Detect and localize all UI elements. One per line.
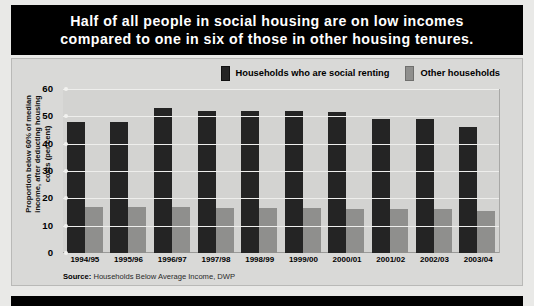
bar — [303, 208, 321, 253]
y-axis-tick-label: 20 — [16, 192, 62, 203]
bar — [477, 211, 495, 253]
y-axis-tick-marker — [64, 224, 68, 228]
x-axis-tick-label: 2003/04 — [456, 255, 500, 269]
bar — [434, 209, 452, 253]
bar — [198, 111, 216, 253]
bar — [85, 207, 103, 253]
infographic-page: Half of all people in social housing are… — [0, 0, 534, 306]
title-line-2: compared to one in six of those in other… — [60, 30, 473, 48]
gridline — [63, 144, 499, 145]
x-axis-tick-label: 1996/97 — [150, 255, 194, 269]
y-axis-tick-marker — [64, 114, 68, 118]
y-axis-tick-label: 40 — [16, 138, 62, 149]
y-axis-title: Proportion below 60% of median income, a… — [22, 69, 54, 239]
gridline — [63, 89, 499, 90]
chart-legend: Households who are social renting Other … — [12, 64, 522, 82]
x-axis-labels: 1994/951995/961996/971997/981998/991999/… — [63, 255, 500, 269]
gridline — [63, 226, 499, 227]
bar — [346, 209, 364, 253]
legend-label-social-renting: Households who are social renting — [236, 68, 390, 78]
legend-swatch-icon-other-households — [405, 66, 414, 81]
bar — [390, 209, 408, 253]
y-axis-tick-marker — [64, 142, 68, 146]
bar — [328, 112, 346, 253]
bar — [172, 207, 190, 253]
source-label: Source: — [63, 272, 91, 281]
y-axis-tick-marker — [64, 169, 68, 173]
bar — [459, 127, 477, 253]
plot-area: 6050403020100 — [63, 89, 500, 253]
bar — [154, 108, 172, 253]
bar — [128, 207, 146, 253]
x-axis-tick-label: 1997/98 — [194, 255, 238, 269]
gridline — [63, 116, 499, 117]
bar — [67, 122, 85, 253]
bar — [416, 119, 434, 253]
y-axis-tick-label: 30 — [16, 165, 62, 176]
x-axis-tick-label: 1999/00 — [282, 255, 326, 269]
chart-panel: Households who are social renting Other … — [11, 58, 523, 286]
bar — [216, 208, 234, 253]
bottom-black-strip — [11, 296, 523, 306]
x-axis-tick-label: 2001/02 — [369, 255, 413, 269]
bar — [241, 111, 259, 253]
legend-item-social-renting: Households who are social renting — [221, 66, 390, 81]
legend-item-other-households: Other households — [405, 66, 500, 81]
title-line-1: Half of all people in social housing are… — [70, 12, 464, 30]
gridline — [63, 198, 499, 199]
legend-swatch-icon-social-renting — [221, 66, 230, 81]
bar — [259, 208, 277, 253]
x-axis-tick-label: 1998/99 — [238, 255, 282, 269]
y-axis-tick-label: 0 — [16, 247, 62, 258]
source-text: Households Below Average Income, DWP — [93, 272, 235, 281]
x-axis-tick-label: 2002/03 — [413, 255, 457, 269]
source-note: Source: Households Below Average Income,… — [63, 272, 235, 281]
y-axis-tick-marker — [64, 196, 68, 200]
bar — [285, 111, 303, 253]
x-axis-tick-label: 1994/95 — [63, 255, 107, 269]
bar — [110, 122, 128, 253]
x-axis-tick-label: 1995/96 — [107, 255, 151, 269]
y-axis-tick-label: 50 — [16, 110, 62, 121]
gridline — [63, 171, 499, 172]
y-axis-tick-label: 10 — [16, 220, 62, 231]
title-banner: Half of all people in social housing are… — [11, 5, 523, 55]
y-axis-tick-label: 60 — [16, 83, 62, 94]
y-axis-tick-marker — [64, 87, 68, 91]
legend-label-other-households: Other households — [420, 68, 500, 78]
bar — [372, 119, 390, 253]
x-axis-tick-label: 2000/01 — [325, 255, 369, 269]
